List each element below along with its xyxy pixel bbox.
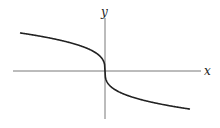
x-axis-label: x	[204, 64, 211, 78]
y-axis-label: y	[100, 5, 108, 19]
plot: x y	[0, 0, 220, 128]
